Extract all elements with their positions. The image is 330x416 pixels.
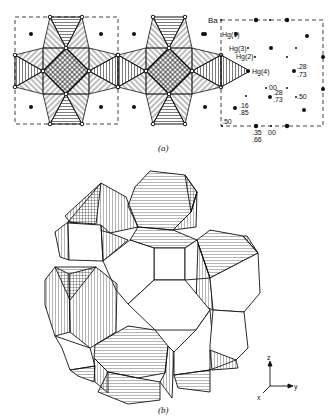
label-66: .66 [252,136,262,143]
axis-label-z: z [267,354,271,361]
axes-triad [263,361,293,393]
label-28-b: .28 [273,89,283,96]
panel-b-3d-framework: z y x [0,160,330,416]
panel-a-structure-projection: Ba Hg(1) Hg(3) Hg(2) Hg(4) .28 .73 00 .2… [0,0,330,160]
label-hg2: Hg(2) [236,53,254,61]
caption-b: (b) [158,405,169,415]
caption-a: (a) [158,143,169,153]
axis-label-x: x [257,394,261,401]
panel-b-drawing: z y x [0,160,330,416]
label-73-b: .73 [273,96,283,103]
label-73-a: .73 [297,71,307,78]
label-hg4: Hg(4) [252,68,270,76]
panel-a-drawing: Ba Hg(1) Hg(3) Hg(2) Hg(4) .28 .73 00 .2… [0,0,330,160]
label-50-right: .50 [297,93,307,100]
label-28-a: .28 [297,63,307,70]
label-hg3: Hg(3) [229,45,247,53]
label-85: .85 [239,109,249,116]
label-50-corner: .50 [222,118,232,125]
label-00-bottom: 00 [268,129,276,136]
label-hg1: Hg(1) [222,31,240,39]
label-35: .35 [252,129,262,136]
label-16: .16 [239,102,249,109]
label-ba: Ba [208,16,218,25]
axis-label-y: y [294,383,298,391]
